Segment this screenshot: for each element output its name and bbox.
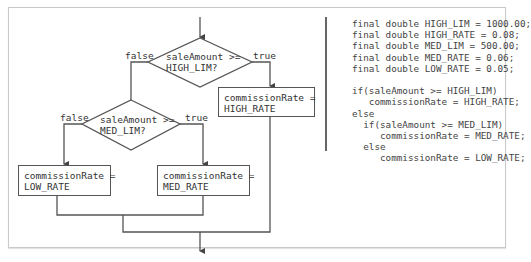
high-false-line [131,62,148,100]
box-med-line1: commissionRate = [163,170,244,181]
decision-med-text-1: saleAmount >= [100,114,174,125]
box-low-line1: commissionRate = [24,170,105,181]
med-true-label: true [185,112,208,123]
code-separator [325,17,327,151]
box-low-line2: LOW_RATE [24,181,105,192]
code-line: commissionRate = LOW_RATE; [352,152,531,163]
code-line: else [352,141,531,152]
decision-high-text-1: saleAmount >= [166,51,240,62]
high-true-arrow [252,62,270,86]
decision-high-text-2: HIGH_LIM? [166,62,217,73]
code-line: final double MED_LIM = 500.00; [352,40,531,51]
code-line: if(saleAmount >= MED_LIM) [352,119,531,130]
code-listing: final double HIGH_LIM = 1000.00; final d… [352,18,531,163]
high-false-label: false [125,50,154,61]
box-med-rate: commissionRate = MED_RATE [157,165,250,196]
decision-med-text-2: MED_LIM? [100,125,146,136]
box-high-line1: commissionRate = [224,92,309,103]
merge-low-med [57,196,203,215]
med-false-label: false [60,112,89,123]
code-line: final double HIGH_LIM = 1000.00; [352,18,531,29]
code-line: else [352,108,531,119]
med-true-arrow [180,124,203,164]
box-high-line2: HIGH_RATE [224,103,309,114]
code-line: if(saleAmount >= HIGH_LIM) [352,85,531,96]
code-line [352,74,531,85]
code-line: final double LOW_RATE = 0.05; [352,63,531,74]
med-false-arrow [64,124,82,164]
box-low-rate: commissionRate = LOW_RATE [18,165,111,196]
box-high-rate: commissionRate = HIGH_RATE [218,87,315,117]
code-line: final double HIGH_RATE = 0.08; [352,29,531,40]
code-line: commissionRate = MED_RATE; [352,130,531,141]
high-true-label: true [253,50,276,61]
box-med-line2: MED_RATE [163,181,244,192]
code-line: commissionRate = HIGH_RATE; [352,96,531,107]
code-line: final double MED_RATE = 0.06; [352,52,531,63]
